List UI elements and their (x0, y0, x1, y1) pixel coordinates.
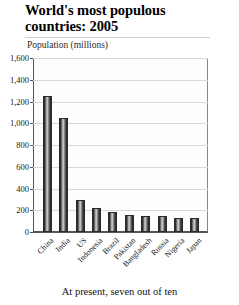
x-axis-labels: ChinaIndiaUSIndonesiaBrazilPakistanBangl… (33, 234, 208, 286)
x-tick-label: Japan (184, 236, 203, 255)
bar (59, 118, 68, 232)
bar (92, 208, 101, 232)
y-tick-label: 600 (16, 162, 29, 172)
y-tick-mark (30, 232, 33, 233)
title-divider (25, 37, 210, 38)
plot-area: 02004006008001,0001,2001,4001,600 (33, 58, 208, 232)
bar (190, 218, 199, 232)
bar (158, 216, 167, 232)
y-tick-label: 200 (16, 205, 29, 215)
bar (174, 218, 183, 232)
y-tick-label: 1,000 (10, 118, 29, 128)
bar-slot (88, 58, 104, 232)
bar (76, 200, 85, 232)
y-axis-title: Population (millions) (27, 40, 108, 50)
bar-slot (39, 58, 55, 232)
bar (125, 215, 134, 232)
gridline (33, 232, 208, 233)
bar (108, 212, 117, 232)
bar-slot (170, 58, 186, 232)
y-tick-label: 400 (16, 184, 29, 194)
y-tick-label: 1,600 (10, 53, 29, 63)
bar-slot (72, 58, 88, 232)
bar-slot (121, 58, 137, 232)
figure-caption: At present, seven out of ten (0, 286, 239, 297)
bar-slot (55, 58, 71, 232)
bar-slot (187, 58, 203, 232)
y-tick-label: 800 (16, 140, 29, 150)
y-tick-label: 1,200 (10, 97, 29, 107)
y-tick-label: 0 (25, 227, 29, 237)
bar (43, 96, 52, 232)
bar (141, 216, 150, 232)
bar-slot (154, 58, 170, 232)
bar-slot (137, 58, 153, 232)
y-tick-label: 1,400 (10, 75, 29, 85)
bar-slot (105, 58, 121, 232)
x-tick-label: China (36, 236, 56, 256)
chart-figure: World's most populous countries: 2005 Po… (0, 0, 239, 305)
bar-series (33, 58, 208, 232)
page-title: World's most populous countries: 2005 (25, 2, 230, 34)
x-tick-label: India (54, 236, 72, 254)
